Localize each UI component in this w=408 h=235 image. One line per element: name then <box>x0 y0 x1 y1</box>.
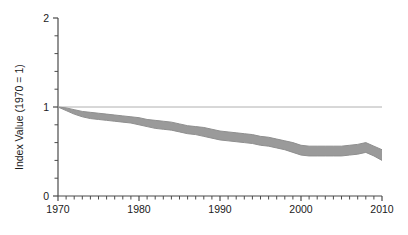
x-tick-label: 1990 <box>208 203 232 215</box>
chart-canvas: Index Value (1970 = 1) 012 1970198019902… <box>0 0 408 235</box>
y-axis-ticks <box>53 18 58 196</box>
y-tick-label: 0 <box>43 190 49 202</box>
y-tick-label: 2 <box>43 12 49 24</box>
x-tick-label: 1980 <box>127 203 151 215</box>
y-axis-title: Index Value (1970 = 1) <box>13 64 25 170</box>
x-tick-labels: 19701980199020002010 <box>46 203 394 215</box>
y-tick-label: 1 <box>43 101 49 113</box>
x-tick-label: 2000 <box>289 203 313 215</box>
x-axis-ticks <box>58 196 382 201</box>
chart-figure: Index Value (1970 = 1) 012 1970198019902… <box>0 0 408 235</box>
y-tick-labels: 012 <box>43 12 49 202</box>
x-tick-label: 1970 <box>46 203 70 215</box>
x-tick-label: 2010 <box>370 203 394 215</box>
upper-bound-line <box>58 107 382 150</box>
data-band-area <box>58 107 382 160</box>
